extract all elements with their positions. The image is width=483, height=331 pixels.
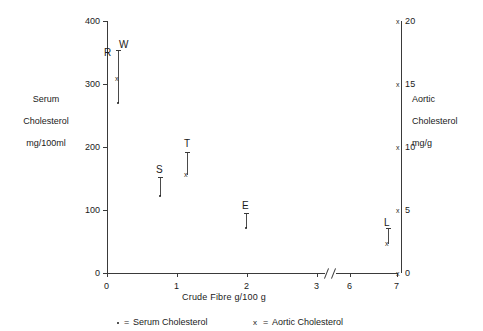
data-label-l: L [384,218,390,228]
data-point-cross-rw: x [115,75,119,82]
data-label-w: W [119,40,128,50]
right-y-tick-marker-5: x [396,207,400,214]
x-tick-label-3: 3 [314,281,319,291]
left-y-tick-label-100: 100 [72,206,100,215]
chart-figure: 400 300 200 100 0 Serum Cholesterol mg/1… [0,0,483,331]
right-y-tick-marker-0: x [396,270,400,277]
legend-aortic-label: Aortic Cholesterol [272,317,343,327]
right-axis-title-line-2: Cholesterol [412,110,482,132]
right-axis-title-line-3: mg/g [412,132,482,154]
legend-aortic-equals: = [263,317,268,327]
x-axis-title: Crude Fibre g/100 g [182,292,266,302]
x-axis-line-right-segment [336,273,398,274]
x-tick-0 [107,273,108,277]
right-y-axis-line [401,21,402,273]
x-tick-6 [350,273,351,277]
data-errorbar-l-cap-top [386,228,391,229]
left-axis-title-line-2: Cholesterol [6,110,86,132]
data-point-dot-s [159,195,161,197]
x-tick-label-2: 2 [244,281,249,291]
data-label-t: T [184,139,190,149]
left-y-tick-200 [103,147,107,148]
left-y-tick-400 [103,21,107,22]
left-axis-title-line-1: Serum [6,88,86,110]
data-errorbar-e-cap-top [244,213,249,214]
data-label-r: R [104,48,111,58]
data-label-s: S [156,165,163,175]
x-tick-label-1: 1 [174,281,179,291]
right-y-tick-marker-10: x [396,144,400,151]
data-point-dot-e [245,227,247,229]
data-errorbar-rw-cap-top [116,50,121,51]
data-errorbar-s [160,177,161,196]
right-y-tick-marker-20: x [396,18,400,25]
x-tick-label-7: 7 [394,281,399,291]
x-tick-2 [247,273,248,277]
right-y-tick-label-0: 0 [405,268,410,278]
legend-serum-equals: = [124,317,129,327]
x-tick-label-0: 0 [104,281,109,291]
x-tick-label-6: 6 [347,281,352,291]
right-y-tick-label-5: 5 [405,205,410,215]
data-errorbar-e [246,213,247,228]
right-y-tick-marker-15: x [396,81,400,88]
x-axis-line-left-segment [107,273,325,274]
left-y-tick-label-0: 0 [72,269,100,278]
legend-serum-label: Serum Cholesterol [133,317,208,327]
left-y-tick-label-400: 400 [72,17,100,26]
data-point-dot-rw-lower [117,102,119,104]
legend-aortic-marker-icon: x [253,319,257,327]
right-y-tick-label-20: 20 [405,16,415,26]
data-point-cross-l: x [385,240,389,247]
left-y-tick-300 [103,84,107,85]
x-tick-3 [317,273,318,277]
data-errorbar-s-cap-top [158,177,163,178]
left-axis-title-line-3: mg/100ml [6,132,86,154]
data-errorbar-t-cap-top [185,152,190,153]
x-axis-break-slash-1 [324,268,329,279]
right-axis-title-line-1: Aortic [412,88,482,110]
left-y-axis-line [107,21,108,273]
data-label-e: E [242,201,249,211]
legend-serum-marker-icon [117,322,119,324]
left-y-tick-100 [103,210,107,211]
x-tick-1 [177,273,178,277]
data-point-cross-t: x [184,171,188,178]
